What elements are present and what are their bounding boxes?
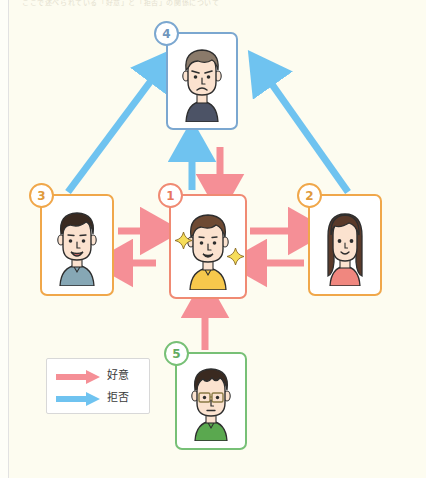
sparkle-icon-right [227, 248, 244, 269]
node-badge-1: 1 [158, 183, 183, 208]
legend-item-favor: 好意 [47, 365, 149, 387]
node-badge-4: 4 [154, 21, 179, 46]
node-badge-3: 3 [29, 183, 54, 208]
arrow-right-icon-pink [56, 369, 100, 383]
person-card-2[interactable]: 2 [308, 194, 382, 296]
diagram-canvas: ここで述べられている「好意」と「拒否」の関係について [0, 0, 426, 478]
node-badge-5-label: 5 [172, 347, 180, 361]
legend-label-reject: 拒否 [107, 391, 129, 405]
portrait-frowning-man [172, 40, 232, 122]
portrait-smiling-man-blue [48, 204, 106, 286]
avatar [42, 196, 112, 294]
person-card-3[interactable]: 3 [40, 194, 114, 296]
edge-2-to-4 [264, 73, 348, 192]
node-badge-5: 5 [164, 341, 189, 366]
legend-label-favor: 好意 [107, 369, 129, 383]
avatar [168, 34, 236, 128]
arrow-right-icon-blue [56, 391, 100, 405]
portrait-long-hair-woman-pink [316, 204, 374, 286]
sparkle-icon-left [175, 232, 192, 253]
person-card-1[interactable]: 1 [169, 194, 247, 299]
node-badge-1-label: 1 [166, 189, 174, 203]
legend: 好意 拒否 [46, 358, 150, 414]
node-badge-2: 2 [297, 183, 322, 208]
node-badge-3-label: 3 [37, 189, 45, 203]
person-card-4[interactable]: 4 [166, 32, 238, 130]
node-badge-2-label: 2 [305, 189, 313, 203]
edge-3-to-4 [68, 70, 159, 192]
avatar [310, 196, 380, 294]
person-card-5[interactable]: 5 [175, 352, 247, 450]
node-badge-4-label: 4 [162, 27, 170, 41]
portrait-glasses-man-green [182, 361, 240, 441]
avatar [177, 354, 245, 448]
legend-item-reject: 拒否 [47, 387, 149, 409]
